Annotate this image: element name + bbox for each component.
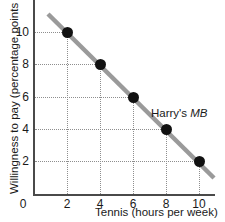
gridline-horizontal (35, 97, 134, 98)
data-point (161, 124, 172, 135)
gridline-vertical (166, 129, 167, 194)
gridline-vertical (67, 32, 68, 194)
chart-canvas: 10 8 6 4 2 0 2 4 6 8 10 Harry's MB Tenni… (0, 0, 225, 222)
gridline-horizontal (35, 161, 199, 162)
data-point (128, 92, 139, 103)
series-annotation-prefix: Harry's (151, 107, 190, 119)
data-point (194, 156, 205, 167)
origin-label: 0 (16, 198, 30, 210)
series-annotation: Harry's MB (151, 107, 208, 119)
gridline-horizontal (35, 64, 101, 65)
x-axis-title: Tennis (hours per week) (95, 206, 218, 218)
series-annotation-emphasis: MB (190, 107, 207, 119)
data-point (95, 59, 106, 70)
data-point (62, 27, 73, 38)
gridline-horizontal (35, 129, 167, 130)
gridline-vertical (100, 64, 101, 194)
x-axis (33, 194, 215, 196)
y-axis-title: Willingness to pay (percentage points pe… (8, 2, 20, 194)
y-axis (33, 0, 35, 196)
x-axis-tick-label: 2 (57, 198, 77, 210)
gridline-vertical (133, 97, 134, 194)
